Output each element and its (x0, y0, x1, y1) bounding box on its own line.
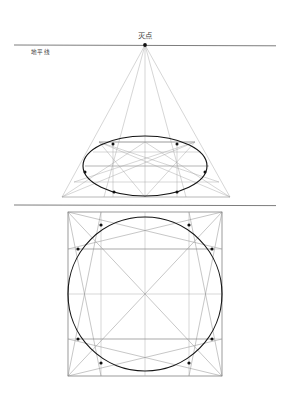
node-lower-2 (187, 223, 190, 226)
node-lower-7 (99, 361, 102, 364)
separator-line (14, 205, 276, 206)
node-upper-3 (84, 171, 87, 174)
node-upper-1 (112, 143, 115, 146)
node-upper-5 (113, 191, 116, 194)
perspective-diagram-canvas: 灭点 地平线 (0, 0, 290, 401)
node-upper-2 (176, 143, 179, 146)
node-lower-5 (76, 337, 79, 340)
node-lower-8 (187, 361, 190, 364)
node-upper-4 (204, 171, 207, 174)
lower-figure-group (68, 212, 222, 376)
node-lower-6 (210, 337, 213, 340)
horizon-line-label: 地平线 (31, 48, 50, 56)
vanishing-point-label: 灭点 (138, 31, 153, 40)
vanishing-point-marker (143, 43, 147, 47)
diagram-svg: 灭点 地平线 (0, 0, 290, 401)
node-lower-3 (76, 247, 79, 250)
node-upper-6 (176, 191, 179, 194)
node-lower-1 (99, 223, 102, 226)
node-lower-4 (210, 247, 213, 250)
